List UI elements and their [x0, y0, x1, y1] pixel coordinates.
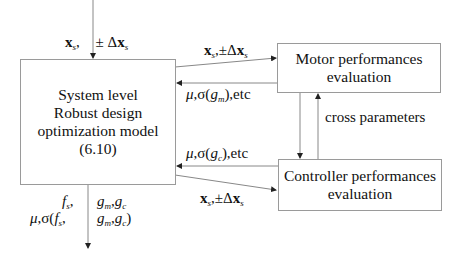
system-level-box: System level Robust design optimization … — [20, 59, 176, 185]
controller-box-line-2: evaluation — [284, 185, 436, 203]
from-motor-label: μ,σ(gm),etc — [186, 86, 251, 107]
output-label-left-2: μ,σ(fs, — [30, 210, 66, 231]
output-label-right-2: gm,gc) — [97, 210, 131, 231]
input-label: xs, ± Δxs — [65, 34, 128, 55]
system-box-line-4: (6.10) — [38, 140, 159, 158]
motor-performances-box: Motor performances evaluation — [277, 43, 441, 93]
to-motor-label: xs,±Δxs — [204, 42, 248, 63]
controller-box-line-1: Controller performances — [284, 167, 436, 185]
from-controller-label: μ,σ(gc),etc — [186, 145, 248, 166]
system-to-controller-arrow — [175, 175, 276, 190]
to-controller-label: xs,±Δxs — [200, 190, 244, 211]
system-box-line-3: optimization model — [38, 122, 159, 140]
cross-parameters-label: cross parameters — [325, 109, 425, 126]
system-box-line-2: Robust design — [38, 104, 159, 122]
system-box-line-1: System level — [38, 86, 159, 104]
motor-box-line-2: evaluation — [296, 68, 423, 86]
controller-performances-box: Controller performances evaluation — [278, 159, 442, 211]
motor-box-line-1: Motor performances — [296, 50, 423, 68]
